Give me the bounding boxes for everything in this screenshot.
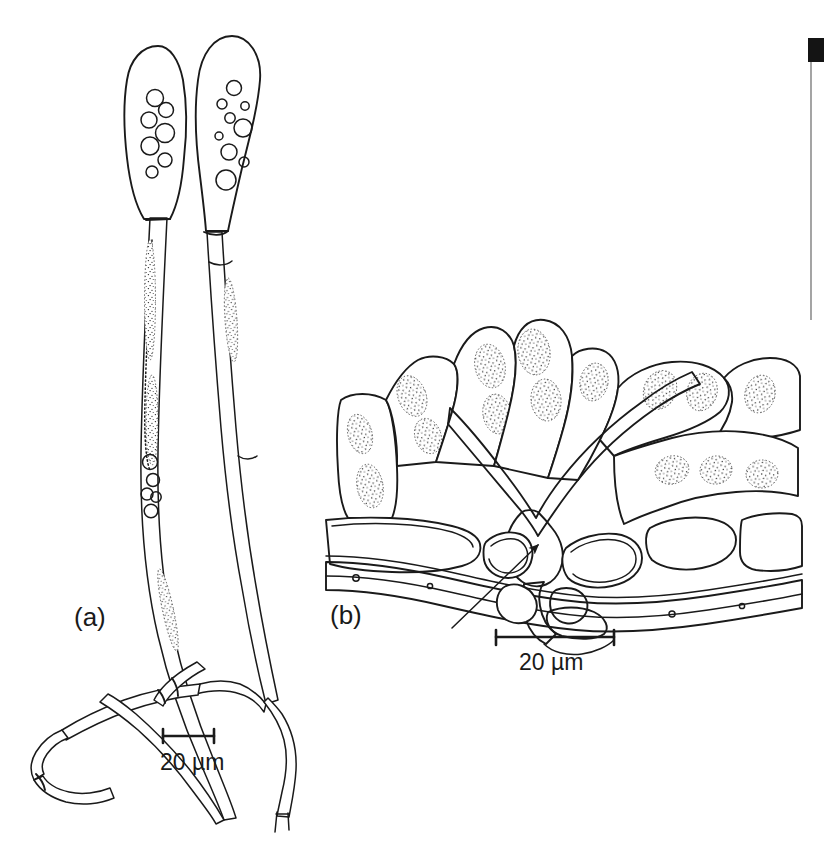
panel-a-label: (a) [74,602,106,632]
panel-b-label: (b) [330,600,362,630]
panel-b-scale-label: 20 µm [519,649,583,675]
mesophyll-cell-5 [740,513,802,571]
inclusion-left-2 [146,375,158,465]
inclusion-left-1 [145,240,156,360]
panel-a-scale-bar: 20 µm [160,729,224,775]
scan-corner-block [808,38,824,62]
figure-illustration: (a) 20 µm [0,0,824,860]
mesophyll-cell-3 [562,534,642,588]
hypha-tip-right-2 [288,813,289,830]
panel-a-scale-label: 20 µm [160,749,224,775]
figure-root: (a) 20 µm [0,0,824,860]
